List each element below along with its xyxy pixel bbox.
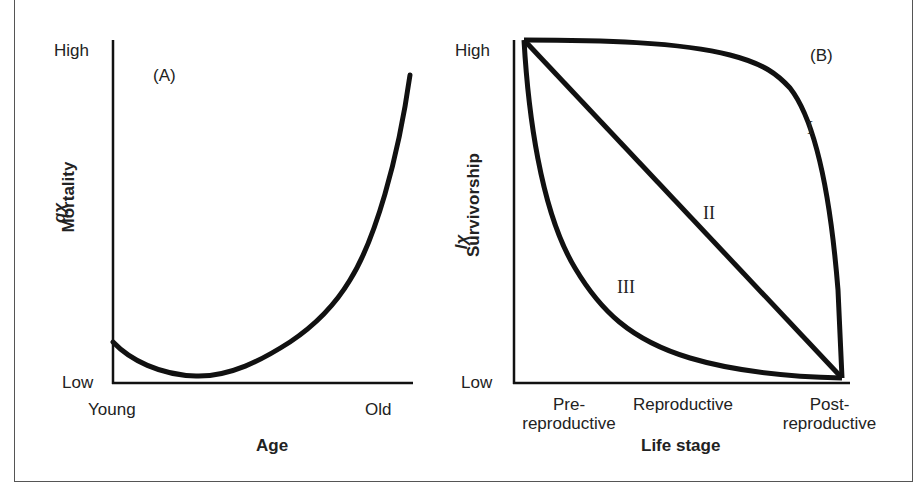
panel-a-y-high-label: High — [54, 41, 89, 61]
stage-pre-line2: reproductive — [514, 414, 624, 433]
stage-reproductive: Reproductive — [618, 395, 748, 414]
mortality-curve — [113, 75, 410, 376]
panel-a-y-symbol: qχ — [50, 193, 70, 233]
panel-b-y-low-label: Low — [461, 373, 492, 393]
stage-post-line1: Post- — [772, 395, 887, 414]
stage-pre-line1: Pre- — [514, 395, 624, 414]
panel-b-y-symbol: lχ — [452, 222, 472, 262]
panel-a-y-low-label: Low — [62, 373, 93, 393]
curve-label-ii: II — [703, 203, 715, 224]
panel-a-tag: (A) — [153, 66, 176, 86]
panel-b-y-high-label: High — [455, 41, 490, 61]
panel-a-x-left-label: Young — [88, 400, 136, 420]
panel-a-axes — [112, 40, 413, 384]
stage-pre-reproductive: Pre- reproductive — [514, 395, 624, 433]
panel-b-tag: (B) — [810, 46, 833, 66]
stage-repro-line1: Reproductive — [618, 395, 748, 414]
curve-label-i: I — [807, 118, 813, 139]
panel-b-x-title: Life stage — [641, 436, 720, 456]
panel-a-x-right-label: Old — [365, 400, 391, 420]
stage-post-reproductive: Post- reproductive — [772, 395, 887, 433]
curve-label-iii: III — [617, 277, 635, 298]
panel-a-x-title: Age — [256, 436, 288, 456]
stage-post-line2: reproductive — [772, 414, 887, 433]
